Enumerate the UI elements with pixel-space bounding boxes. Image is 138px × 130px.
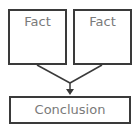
arrowhead-icon [66,89,74,95]
conclusion-box: Conclusion [9,96,131,124]
connector-left [37,65,70,83]
conclusion-label: Conclusion [35,102,106,117]
connector-right [70,65,102,83]
